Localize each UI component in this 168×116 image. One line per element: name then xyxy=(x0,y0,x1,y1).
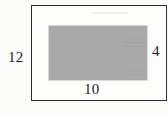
inner-rectangle-height-label: 4 xyxy=(152,44,160,59)
inner-shaded-rectangle xyxy=(49,26,147,80)
scan-artifact xyxy=(123,38,145,39)
scan-artifact xyxy=(123,46,145,47)
scan-artifact xyxy=(123,42,145,43)
scan-artifact xyxy=(92,12,128,14)
inner-rectangle-width-label: 10 xyxy=(84,82,99,97)
figure-canvas: 12 4 10 xyxy=(0,0,168,116)
scan-artifact xyxy=(125,74,143,75)
scan-artifact xyxy=(125,70,143,71)
outer-rectangle-height-label: 12 xyxy=(8,50,23,65)
